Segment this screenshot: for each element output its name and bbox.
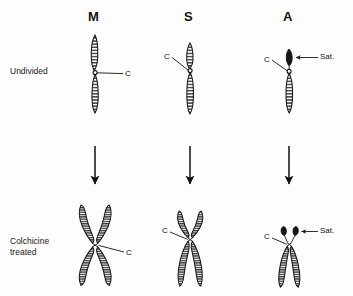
label-centromere-s-undivided: C bbox=[164, 52, 170, 61]
chromosome-a-treated bbox=[272, 226, 318, 287]
chromosome-m-undivided bbox=[91, 35, 123, 113]
label-centromere-m-treated: C bbox=[126, 248, 132, 257]
chromosome-a-undivided bbox=[272, 49, 318, 113]
chromosome-m-treated bbox=[79, 205, 124, 285]
label-centromere-m-undivided: C bbox=[125, 69, 131, 78]
chromosome-diagram: M S A Undivided Colchicine treated bbox=[0, 0, 353, 296]
chromosome-s-undivided bbox=[172, 43, 193, 114]
chromosome-artwork bbox=[0, 0, 353, 296]
label-centromere-a-treated: C bbox=[264, 232, 270, 241]
label-centromere-a-undivided: C bbox=[264, 55, 270, 64]
satellite-knob-a-treated-left bbox=[281, 226, 286, 235]
label-satellite-a-undivided: Sat. bbox=[320, 52, 334, 61]
label-satellite-a-treated: Sat. bbox=[320, 226, 334, 235]
label-centromere-s-treated: C bbox=[162, 226, 168, 235]
transition-arrows bbox=[95, 146, 289, 184]
satellite-knob-a-treated-right bbox=[293, 226, 298, 235]
chromosome-s-treated bbox=[170, 211, 203, 286]
satellite-knob-a-undivided bbox=[286, 49, 292, 66]
